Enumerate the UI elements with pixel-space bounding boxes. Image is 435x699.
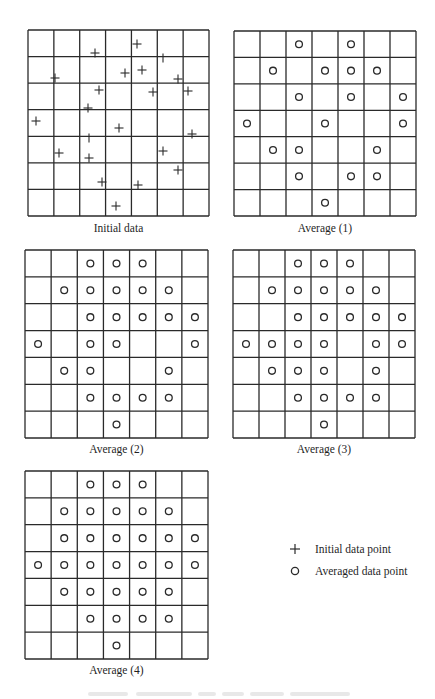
averaged-point-marker <box>321 341 328 348</box>
averaged-point-marker <box>296 41 303 48</box>
initial-point-marker <box>188 130 197 139</box>
averaged-point-marker <box>243 341 250 348</box>
initial-point-marker <box>84 104 93 113</box>
averaged-point-marker <box>399 341 406 348</box>
averaged-point-marker <box>347 260 354 267</box>
averaged-point-marker <box>295 314 302 321</box>
averaged-point-marker <box>113 588 120 595</box>
averaged-point-marker <box>296 173 303 180</box>
averaged-point-marker <box>347 394 354 401</box>
caption-smudge <box>88 692 128 696</box>
averaged-point-marker <box>87 615 94 622</box>
panel-label-average-1: Average (1) <box>234 222 416 234</box>
initial-point-marker <box>85 154 94 163</box>
averaged-point-marker <box>322 120 329 127</box>
averaged-point-marker <box>295 341 302 348</box>
initial-point-marker <box>133 40 142 49</box>
averaged-point-marker <box>192 535 199 542</box>
averaged-point-marker <box>373 314 380 321</box>
averaged-point-marker <box>87 481 94 488</box>
initial-point-marker <box>174 75 183 84</box>
averaged-point-marker <box>400 120 407 127</box>
initial-point-marker <box>138 66 147 75</box>
caption-smudge <box>290 692 350 696</box>
averaged-point-marker <box>61 535 68 542</box>
legend-item-initial: Initial data point <box>283 538 433 560</box>
caption-smudge <box>250 692 284 696</box>
averaged-point-marker <box>139 481 146 488</box>
averaged-point-marker <box>321 367 328 374</box>
plus-icon <box>283 540 307 558</box>
averaged-point-marker <box>348 67 355 74</box>
averaged-point-marker <box>295 394 302 401</box>
averaged-point-marker <box>347 314 354 321</box>
initial-point-marker <box>174 166 183 175</box>
grid-average-3 <box>233 250 417 440</box>
averaged-point-marker <box>295 260 302 267</box>
averaged-point-marker <box>139 562 146 569</box>
averaged-point-marker <box>269 367 276 374</box>
averaged-point-marker <box>113 341 120 348</box>
averaged-point-marker <box>61 508 68 515</box>
averaged-point-marker <box>192 314 199 321</box>
averaged-point-marker <box>61 367 68 374</box>
averaged-point-marker <box>35 341 42 348</box>
panel-label-initial-data: Initial data <box>28 222 209 234</box>
averaged-point-marker <box>87 508 94 515</box>
initial-point-marker <box>121 69 130 78</box>
figure-caption-faded <box>88 686 358 699</box>
averaged-point-marker <box>269 287 276 294</box>
averaged-point-marker <box>139 314 146 321</box>
averaged-point-marker <box>348 94 355 101</box>
legend-item-averaged: Averaged data point <box>283 560 433 582</box>
averaged-point-marker <box>270 147 277 154</box>
initial-point-marker <box>159 147 168 156</box>
averaged-point-marker <box>139 287 146 294</box>
averaged-point-marker <box>321 287 328 294</box>
grid-average-2 <box>25 250 210 440</box>
averaged-point-marker <box>61 287 68 294</box>
averaged-point-marker <box>165 535 172 542</box>
averaged-point-marker <box>321 260 328 267</box>
caption-smudge <box>222 692 244 696</box>
averaged-point-marker <box>348 41 355 48</box>
averaged-point-marker <box>374 173 381 180</box>
averaged-point-marker <box>192 562 199 569</box>
averaged-point-marker <box>399 314 406 321</box>
averaged-point-marker <box>321 394 328 401</box>
panel-average-4: Average (4) <box>25 471 208 680</box>
averaged-point-marker <box>165 367 172 374</box>
averaged-point-marker <box>87 287 94 294</box>
averaged-point-marker <box>295 367 302 374</box>
averaged-point-marker <box>269 341 276 348</box>
averaged-point-marker <box>139 535 146 542</box>
averaged-point-marker <box>373 367 380 374</box>
legend-label-initial: Initial data point <box>315 543 391 555</box>
grid-average-1 <box>234 31 418 218</box>
initial-point-marker <box>184 87 193 96</box>
grid-initial-data <box>28 30 211 218</box>
averaged-point-marker <box>35 562 42 569</box>
initial-point-marker <box>149 88 158 97</box>
averaged-point-marker <box>87 588 94 595</box>
averaged-point-marker <box>139 260 146 267</box>
averaged-point-marker <box>113 287 120 294</box>
panel-label-average-2: Average (2) <box>25 443 208 455</box>
averaged-point-marker <box>113 562 120 569</box>
averaged-point-marker <box>139 508 146 515</box>
panel-average-2: Average (2) <box>25 250 208 459</box>
averaged-point-marker <box>61 588 68 595</box>
averaged-point-marker <box>165 394 172 401</box>
averaged-point-marker <box>87 535 94 542</box>
averaged-point-marker <box>296 147 303 154</box>
initial-point-marker <box>51 74 60 83</box>
averaged-point-marker <box>139 588 146 595</box>
averaged-point-marker <box>113 508 120 515</box>
averaged-point-marker <box>322 199 329 206</box>
averaged-point-marker <box>87 260 94 267</box>
averaged-point-marker <box>87 341 94 348</box>
averaged-point-marker <box>374 147 381 154</box>
averaged-point-marker <box>270 67 277 74</box>
averaged-point-marker <box>321 421 328 428</box>
averaged-point-marker <box>296 94 303 101</box>
